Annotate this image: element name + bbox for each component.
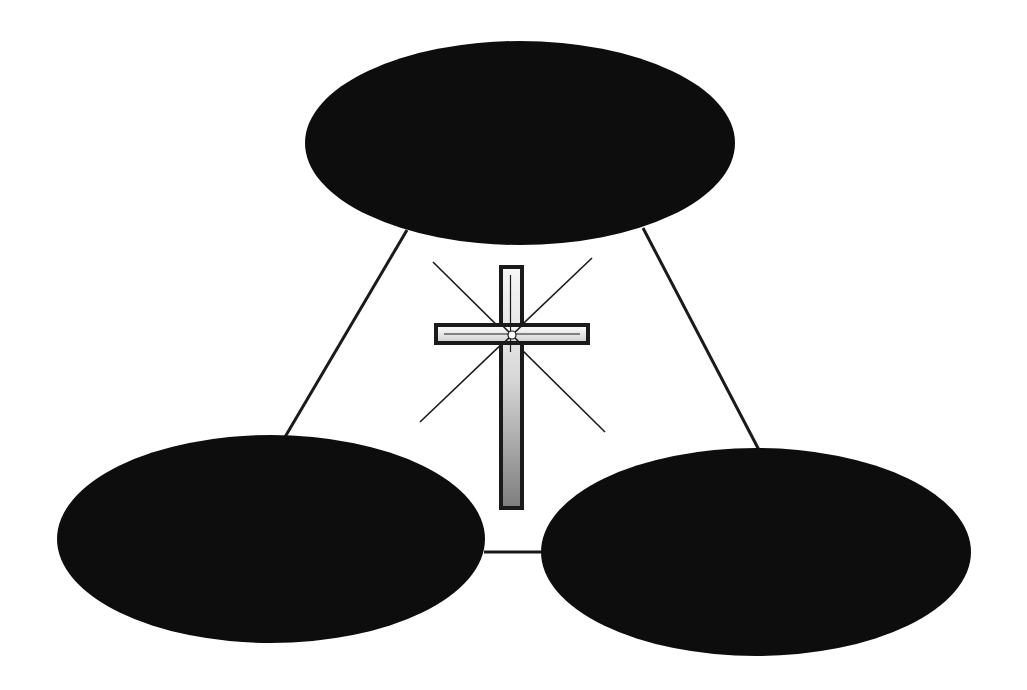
cross-center-spark	[508, 331, 516, 339]
cross-icon	[420, 258, 605, 508]
cross-vertical-beam	[501, 267, 522, 508]
edge-top-to-bottom-right	[643, 228, 759, 450]
diagram-svg	[0, 0, 1027, 690]
node-ellipse-top	[305, 41, 735, 245]
diagram-canvas	[0, 0, 1027, 690]
edge-top-to-bottom-left	[285, 230, 407, 437]
node-ellipse-bottom-right	[541, 448, 971, 656]
node-ellipse-bottom-left	[57, 435, 485, 643]
